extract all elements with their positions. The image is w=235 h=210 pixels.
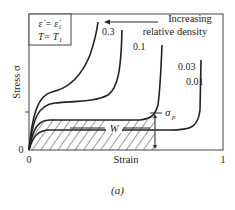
x-tick-1: 1 (221, 154, 226, 165)
label-sigma-sub: p (171, 113, 176, 121)
arrow-label-increasing: Increasing (168, 13, 212, 24)
label-w: W (110, 123, 120, 134)
arrowhead-icon (104, 20, 110, 25)
x-tick-0: 0 (27, 154, 32, 165)
x-axis-label: Strain (113, 154, 139, 165)
figure-caption: (a) (0, 184, 235, 196)
y-tick-0: 0 (19, 144, 24, 155)
legend-strain-rate: ε̇ = ε̇₁ (38, 18, 61, 29)
y-axis-label: Stress σ (11, 65, 22, 99)
legend-temperature: T= T₁ (38, 31, 62, 42)
label-0.01: 0.01 (186, 76, 204, 87)
label-0.1: 0.1 (133, 41, 146, 52)
stress-strain-chart: ε̇ = ε̇₁ T= T₁ Increasing relative densi… (0, 0, 235, 210)
energy-region-w (29, 113, 155, 150)
label-sigma: σ (165, 106, 171, 118)
arrow-label-density: relative density (143, 26, 208, 37)
label-0.03: 0.03 (178, 61, 196, 72)
label-0.3: 0.3 (102, 26, 115, 37)
